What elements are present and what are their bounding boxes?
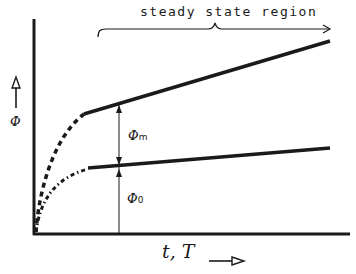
y-axis-label: Φ [10,114,21,129]
phi-0-subscript: 0 [138,195,144,205]
region-brace-icon [98,23,330,37]
phi-m-label: Φm [128,128,147,143]
y-axis-arrow-icon [12,77,20,108]
region-label: steady state region [140,4,317,19]
phi-0-symbol: Φ [127,191,138,206]
upper-transient-curve [36,114,84,232]
upper-steady-line [84,41,330,114]
phi-0-label: Φ0 [127,191,143,206]
x-axis-arrow-icon [209,257,244,265]
diagram-graphics [0,0,356,274]
phi-m-symbol: Φ [128,128,139,143]
lower-steady-line [88,148,330,168]
x-axis-label: t, T [162,240,194,262]
phi-m-subscript: m [139,132,148,142]
y-axis-symbol: Φ [10,114,21,129]
diagram-canvas: steady state region Φ Φm Φ0 t, T [0,0,356,274]
dimension-marker [116,105,122,234]
